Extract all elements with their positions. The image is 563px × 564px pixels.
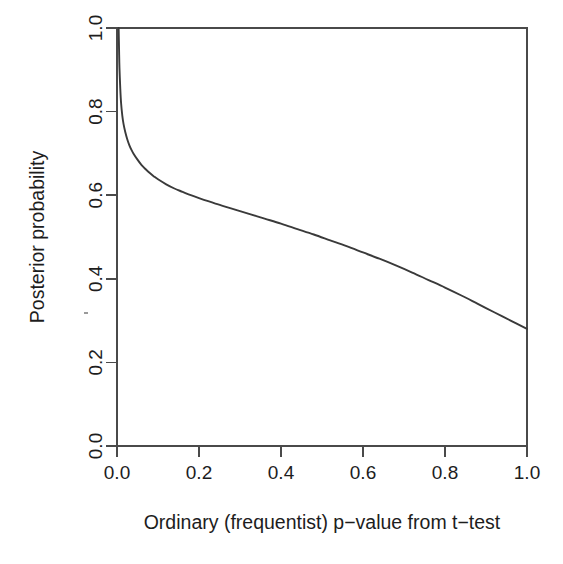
y-axis-tick-labels: 0.00.20.40.60.81.0	[85, 15, 106, 459]
chart-figure: 0.00.20.40.60.81.0 0.00.20.40.60.81.0 Or…	[0, 0, 563, 564]
x-axis-title: Ordinary (frequentist) p−value from t−te…	[144, 511, 501, 533]
x-tick-label: 0.8	[432, 462, 458, 483]
x-tick-label: 0.6	[350, 462, 376, 483]
x-axis-ticks	[117, 446, 527, 457]
y-tick-label: 0.6	[85, 182, 106, 208]
x-tick-label: 1.0	[514, 462, 540, 483]
y-tick-label: 1.0	[85, 15, 106, 41]
y-tick-label: 0.2	[85, 349, 106, 375]
x-tick-label: 0.0	[104, 462, 130, 483]
y-tick-label: 0.0	[85, 433, 106, 459]
x-tick-label: 0.2	[186, 462, 212, 483]
y-axis-ticks	[106, 28, 117, 446]
y-tick-label: 0.4	[85, 265, 106, 292]
y-tick-label: 0.8	[85, 98, 106, 124]
chart-canvas: 0.00.20.40.60.81.0 0.00.20.40.60.81.0 Or…	[0, 0, 563, 564]
scan-artifact-speck	[84, 312, 88, 314]
data-curve-posterior-probability	[119, 28, 527, 329]
x-axis-tick-labels: 0.00.20.40.60.81.0	[104, 462, 540, 483]
y-axis-title: Posterior probability	[26, 151, 48, 324]
x-tick-label: 0.4	[268, 462, 295, 483]
